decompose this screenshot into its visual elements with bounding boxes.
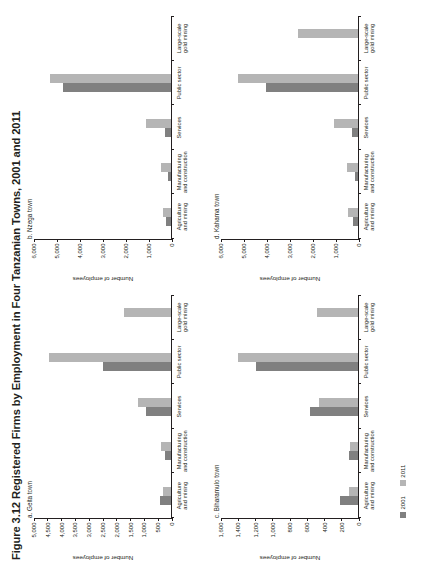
x-axis-label: Large-scalegold mining xyxy=(176,16,189,61)
bar-2001 xyxy=(310,407,358,416)
y-tick-mark xyxy=(80,239,81,242)
x-axis-label: Large-scalegold mining xyxy=(363,295,376,340)
bar-2011 xyxy=(161,442,171,451)
y-tick-mark xyxy=(47,518,48,521)
y-tick-label: 3,000 xyxy=(86,523,92,538)
plot-area-d: 01,0002,0003,0004,0005,0006,000Number of… xyxy=(221,16,359,239)
x-axis-label: Public sector xyxy=(363,61,376,106)
x-axis-label: Services xyxy=(363,384,376,429)
bar-group xyxy=(221,473,358,518)
bars-container xyxy=(221,295,358,518)
y-tick-label: 2,000 xyxy=(310,244,316,259)
y-tick-label: 5,000 xyxy=(31,523,37,538)
x-axis-line xyxy=(171,16,172,239)
x-axis-line xyxy=(358,16,359,239)
x-axis-label: Manufacturingand construction xyxy=(176,429,189,474)
y-tick-mark xyxy=(341,518,342,521)
y-tick-mark xyxy=(149,239,150,242)
bar-group xyxy=(221,105,358,150)
y-tick-mark xyxy=(307,518,308,521)
x-axis-label: Agricultureand mining xyxy=(363,194,376,239)
y-axis-label-c: Number of employees xyxy=(260,555,321,562)
bar-2011 xyxy=(161,163,171,172)
x-axis-labels: Agricultureand miningManufacturingand co… xyxy=(176,295,189,518)
x-axis-label: Manufacturingand construction xyxy=(363,429,376,474)
bar-group xyxy=(221,61,358,106)
y-tick-mark xyxy=(126,239,127,242)
y-tick-label: 600 xyxy=(304,523,310,533)
x-axis-label: Large-scalegold mining xyxy=(176,295,189,340)
y-tick-mark xyxy=(57,239,58,242)
bars-container xyxy=(34,16,171,239)
y-tick-label: 200 xyxy=(339,523,345,533)
y-tick-mark xyxy=(103,239,104,242)
panel-grid: a. Geita town05001,0001,5002,0002,5003,0… xyxy=(24,12,396,562)
bar-group xyxy=(34,150,171,195)
x-axis-label: Manufacturingand construction xyxy=(176,150,189,195)
y-tick-mark xyxy=(221,518,222,521)
y-tick-mark xyxy=(324,518,325,521)
y-tick-mark xyxy=(272,518,273,521)
bars-container xyxy=(34,295,171,518)
bar-2011 xyxy=(146,119,171,128)
bar-group xyxy=(34,105,171,150)
panel-title-b: b. Nzega town xyxy=(26,12,33,239)
bar-2011 xyxy=(163,208,171,217)
y-tick-mark xyxy=(255,518,256,521)
x-axis-label: Services xyxy=(176,105,189,150)
y-tick-label: 1,500 xyxy=(128,523,134,538)
x-axis-label: Services xyxy=(176,384,189,429)
y-tick-mark xyxy=(75,518,76,521)
y-tick-label: 4,000 xyxy=(77,244,83,259)
y-tick-mark xyxy=(221,239,222,242)
legend-label: 2001 xyxy=(400,496,406,509)
x-axis-label: Large-scalegold mining xyxy=(363,16,376,61)
bar-2011 xyxy=(317,308,358,317)
bar-2001 xyxy=(340,496,358,505)
y-tick-label: 1,000 xyxy=(146,244,152,259)
bar-2011 xyxy=(348,208,358,217)
bar-group xyxy=(221,384,358,429)
y-tick-label: 2,000 xyxy=(123,244,129,259)
y-tick-label: 1,000 xyxy=(141,523,147,538)
legend-swatch-icon xyxy=(400,480,406,486)
x-axis-line xyxy=(171,295,172,518)
plot-area-c: 02004006008001,0001,2001,4001,600Number … xyxy=(221,295,359,518)
bar-2011 xyxy=(319,398,358,407)
bar-group xyxy=(34,429,171,474)
bar-2011 xyxy=(298,29,358,38)
legend-label: 2011 xyxy=(400,465,406,478)
bar-2001 xyxy=(256,362,358,371)
figure-legend: 20012011 xyxy=(400,12,406,518)
y-tick-mark xyxy=(359,239,360,242)
legend-item-2011: 2011 xyxy=(400,465,406,486)
y-tick-label: 4,000 xyxy=(59,523,65,538)
y-tick-label: 400 xyxy=(322,523,328,533)
x-axis-labels: Agricultureand miningManufacturingand co… xyxy=(363,16,376,239)
x-axis-labels: Agricultureand miningManufacturingand co… xyxy=(176,16,189,239)
rotated-page-wrapper: Figure 3.12 Registered Firms by Employme… xyxy=(0,0,426,574)
y-tick-label: 6,000 xyxy=(218,244,224,259)
chart-panel-c: c. Biharamulo town02004006008001,0001,20… xyxy=(211,291,396,562)
x-axis-label: Public sector xyxy=(176,340,189,385)
y-tick-mark xyxy=(116,518,117,521)
x-axis-labels: Agricultureand miningManufacturingand co… xyxy=(363,295,376,518)
y-tick-mark xyxy=(130,518,131,521)
bar-group xyxy=(221,340,358,385)
y-tick-mark xyxy=(244,239,245,242)
bar-2001 xyxy=(103,362,171,371)
x-axis-label: Agricultureand mining xyxy=(176,194,189,239)
bar-group xyxy=(34,16,171,61)
x-axis-line xyxy=(358,295,359,518)
bars-container xyxy=(221,16,358,239)
bar-group xyxy=(34,384,171,429)
bar-2011 xyxy=(350,442,358,451)
y-tick-mark xyxy=(238,518,239,521)
bar-group xyxy=(34,61,171,106)
bar-2001 xyxy=(146,407,171,416)
bar-2011 xyxy=(349,487,358,496)
chart-panel-a: a. Geita town05001,0001,5002,0002,5003,0… xyxy=(24,291,209,562)
y-tick-label: 2,000 xyxy=(114,523,120,538)
y-tick-label: 800 xyxy=(287,523,293,533)
chart-panel-b: b. Nzega town01,0002,0003,0004,0005,0006… xyxy=(24,12,209,283)
